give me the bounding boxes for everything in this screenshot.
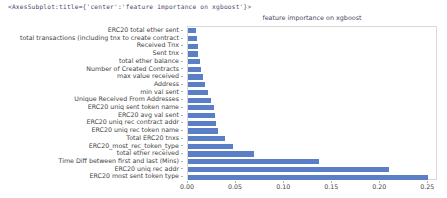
screenshot-root: <AxesSubplot:title={'center':'feature im… (0, 0, 447, 198)
y-tick-label: ERC20 uniq rec token name (92, 126, 179, 134)
bar-row (188, 35, 436, 43)
y-tick-label: ERC20 uniq sent token name (88, 103, 179, 111)
y-tick-mark (181, 84, 183, 85)
y-tick-label: max value received (117, 72, 179, 80)
y-tick-mark (181, 38, 183, 39)
y-tick-label: ERC20 uniq rec contract addr (86, 118, 179, 126)
y-tick-label: ERC20 uniq rec addr (115, 165, 179, 173)
y-tick-label: Sent tnx (152, 49, 179, 57)
y-tick-label: total ether received (117, 149, 179, 157)
bar-series (188, 27, 436, 179)
y-tick-mark (181, 122, 183, 123)
y-tick-mark (181, 161, 183, 162)
bar-row (188, 58, 436, 66)
bar (188, 128, 218, 133)
bar-row (188, 127, 436, 135)
y-tick-label: Total ERC20 tnxs (126, 134, 179, 142)
plot-area (187, 26, 437, 180)
bar-row (188, 27, 436, 35)
x-tick-label: 0.20 (372, 183, 386, 190)
y-tick-label: ERC20_most_rec_token_type (89, 142, 179, 150)
bar (188, 121, 216, 126)
y-tick-mark (181, 99, 183, 100)
y-tick-mark (181, 61, 183, 62)
bar-row (188, 104, 436, 112)
x-axis-labels: 0.000.050.100.150.200.25 (187, 181, 437, 193)
y-tick-label: Number of Created Contracts (86, 65, 179, 73)
y-tick-mark (181, 107, 183, 108)
y-tick-label: ERC20 avg val sent (118, 111, 179, 119)
bar-row (188, 73, 436, 81)
x-tick-label: 0.25 (420, 183, 434, 190)
bar (188, 167, 389, 172)
x-tick-label: 0.00 (180, 183, 194, 190)
y-tick-mark (181, 68, 183, 69)
y-tick-label: ERC20 total ether sent (108, 26, 179, 34)
y-tick-mark (181, 145, 183, 146)
bar (188, 67, 201, 72)
x-tick-label: 0.10 (276, 183, 290, 190)
bar-row (188, 50, 436, 58)
y-tick-label: ERC20 most sent token type (90, 172, 179, 180)
bar-row (188, 96, 436, 104)
bar-row (188, 166, 436, 174)
bar (188, 159, 319, 164)
y-tick-mark (181, 130, 183, 131)
y-tick-label: Unique Received From Addresses (74, 95, 179, 103)
bar (188, 59, 200, 64)
y-tick-mark (181, 115, 183, 116)
y-tick-mark (181, 53, 183, 54)
y-tick-mark (181, 138, 183, 139)
bar (188, 113, 215, 118)
bar (188, 90, 208, 95)
bar-row (188, 150, 436, 158)
matplotlib-figure: feature importance on xgboost ERC20 tota… (0, 12, 447, 198)
chart-title: feature importance on xgboost (187, 14, 437, 23)
y-tick-label: total ether balance (119, 57, 179, 65)
y-tick-label: Time Diff between first and last (Mins) (59, 157, 179, 165)
bar-row (188, 42, 436, 50)
bar (188, 105, 214, 110)
bar (188, 36, 197, 41)
bar (188, 82, 205, 87)
y-tick-mark (181, 45, 183, 46)
bar-row (188, 173, 436, 181)
bar (188, 44, 198, 49)
bar (188, 98, 211, 103)
bar (188, 144, 233, 149)
y-tick-mark (181, 91, 183, 92)
bar-row (188, 119, 436, 127)
y-axis-labels: ERC20 total ether senttotal transactions… (0, 26, 183, 180)
bar (188, 151, 254, 156)
bar (188, 74, 203, 79)
bar-row (188, 143, 436, 151)
y-tick-mark (181, 30, 183, 31)
bar (188, 28, 196, 33)
bar-row (188, 135, 436, 143)
axes-repr-text: <AxesSubplot:title={'center':'feature im… (8, 2, 251, 11)
y-tick-label: Received Tnx (137, 41, 179, 49)
x-tick-label: 0.05 (228, 183, 242, 190)
x-tick-label: 0.15 (324, 183, 338, 190)
bar-row (188, 89, 436, 97)
bar (188, 136, 225, 141)
bar (188, 175, 428, 180)
y-tick-mark (181, 76, 183, 77)
bar-row (188, 158, 436, 166)
bar-row (188, 112, 436, 120)
y-tick-label: total transactions (including tnx to cre… (20, 34, 179, 42)
bar-row (188, 81, 436, 89)
y-tick-mark (181, 168, 183, 169)
y-tick-mark (181, 176, 183, 177)
y-tick-mark (181, 153, 183, 154)
y-tick-label: min val sent (140, 88, 179, 96)
bar-row (188, 66, 436, 74)
y-tick-label: Address (154, 80, 179, 88)
bar (188, 51, 198, 56)
